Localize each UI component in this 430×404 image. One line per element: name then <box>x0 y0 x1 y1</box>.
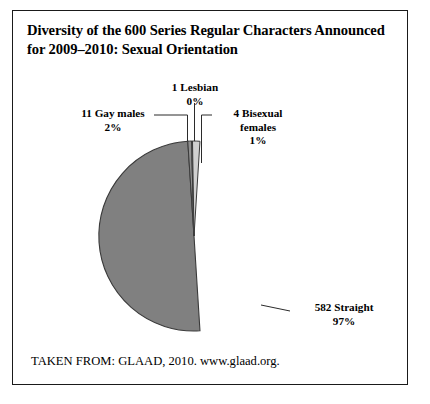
pie-slice-straight <box>99 141 200 331</box>
pie-label-bisexual-females-name: 4 Bisexual <box>216 107 300 121</box>
pie-label-lesbian-name: 1 Lesbian <box>152 81 238 95</box>
leader-line-straight <box>261 305 290 311</box>
pie-label-lesbian: 1 Lesbian 0% <box>152 81 238 108</box>
pie-label-gay-males: 11 Gay males 2% <box>63 107 163 134</box>
pie-label-gay-males-percent: 2% <box>63 121 163 135</box>
source-note: TAKEN FROM: GLAAD, 2010. www.glaad.org. <box>31 354 280 369</box>
pie-label-straight: 582 Straight 97% <box>294 301 394 328</box>
pie-label-bisexual-females-name2: females <box>216 121 300 135</box>
pie-label-bisexual-females: 4 Bisexual females 1% <box>216 107 300 148</box>
pie-slice-bisexual-females <box>193 141 200 236</box>
pie-label-straight-percent: 97% <box>294 315 394 329</box>
pie-label-bisexual-females-percent: 1% <box>216 134 300 148</box>
pie-label-straight-name: 582 Straight <box>294 301 394 315</box>
pie-slices <box>99 141 200 331</box>
pie-label-gay-males-name: 11 Gay males <box>63 107 163 121</box>
leader-line-bisexual-females <box>202 115 213 163</box>
chart-figure-frame: Diversity of the 600 Series Regular Char… <box>12 10 408 385</box>
